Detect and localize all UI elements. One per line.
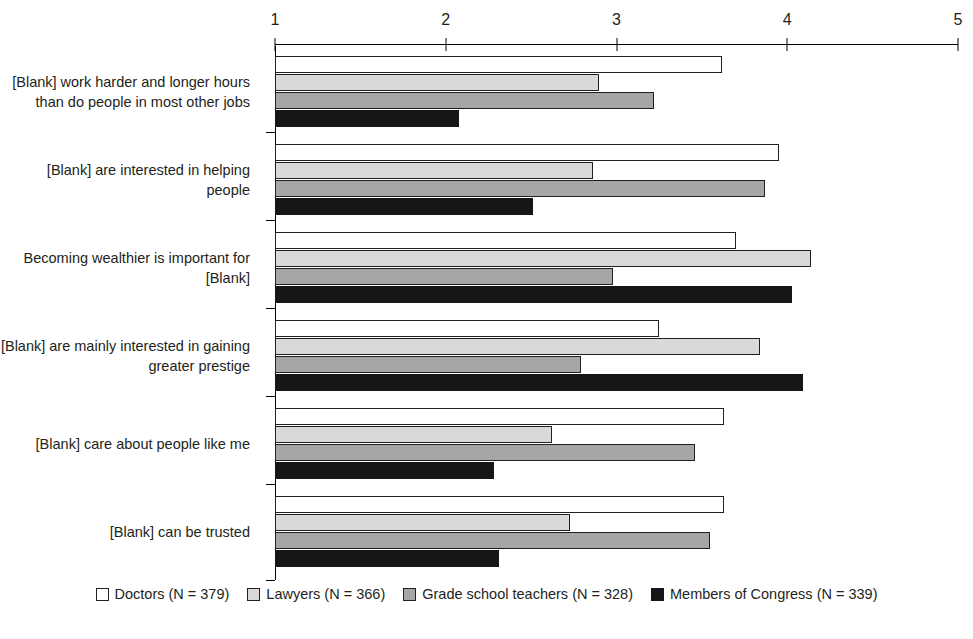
legend-swatch-icon bbox=[403, 588, 416, 601]
category-label: [Blank] are mainly interested in gaining… bbox=[0, 336, 250, 376]
legend-item[interactable]: Grade school teachers (N = 328) bbox=[403, 585, 633, 603]
bar-group bbox=[275, 496, 958, 568]
bar[interactable] bbox=[275, 514, 570, 531]
legend-label: Doctors (N = 379) bbox=[115, 585, 230, 603]
bar[interactable] bbox=[275, 374, 803, 391]
bar[interactable] bbox=[275, 232, 736, 249]
legend-label: Lawyers (N = 366) bbox=[266, 585, 385, 603]
legend-item[interactable]: Lawyers (N = 366) bbox=[247, 585, 385, 603]
category-axis-tick bbox=[266, 132, 275, 133]
bar[interactable] bbox=[275, 180, 765, 197]
x-axis: 12345 bbox=[275, 0, 958, 46]
category-axis-tick bbox=[266, 220, 275, 221]
category-label: Becoming wealthier is important for [Bla… bbox=[0, 248, 250, 288]
legend-label: Members of Congress (N = 339) bbox=[670, 585, 878, 603]
bar[interactable] bbox=[275, 162, 593, 179]
bar[interactable] bbox=[275, 56, 722, 73]
bar-group bbox=[275, 408, 958, 480]
bar[interactable] bbox=[275, 496, 724, 513]
bar[interactable] bbox=[275, 356, 581, 373]
x-axis-tick-label: 1 bbox=[271, 12, 280, 28]
bar-group bbox=[275, 144, 958, 216]
legend-swatch-icon bbox=[247, 588, 260, 601]
bar[interactable] bbox=[275, 198, 533, 215]
bar-group bbox=[275, 232, 958, 304]
category-label: [Blank] care about people like me bbox=[0, 434, 250, 454]
category-label: [Blank] work harder and longer hours tha… bbox=[0, 72, 250, 112]
bar[interactable] bbox=[275, 74, 599, 91]
bar-group bbox=[275, 320, 958, 392]
bar[interactable] bbox=[275, 532, 710, 549]
bar[interactable] bbox=[275, 92, 654, 109]
bar[interactable] bbox=[275, 250, 811, 267]
plot-area bbox=[275, 46, 958, 575]
category-label: [Blank] can be trusted bbox=[0, 522, 250, 542]
bar-group bbox=[275, 56, 958, 128]
x-axis-tick-label: 4 bbox=[783, 12, 792, 28]
bar[interactable] bbox=[275, 144, 779, 161]
bar[interactable] bbox=[275, 550, 499, 567]
bar[interactable] bbox=[275, 320, 659, 337]
x-axis-tick-label: 3 bbox=[612, 12, 621, 28]
x-axis-tick-label: 5 bbox=[954, 12, 963, 28]
bar[interactable] bbox=[275, 338, 760, 355]
bar[interactable] bbox=[275, 408, 724, 425]
legend: Doctors (N = 379)Lawyers (N = 366)Grade … bbox=[0, 585, 973, 603]
category-axis-tick bbox=[266, 580, 275, 581]
bar[interactable] bbox=[275, 444, 695, 461]
category-label: [Blank] are interested in helping people bbox=[0, 160, 250, 200]
legend-label: Grade school teachers (N = 328) bbox=[422, 585, 633, 603]
x-axis-tick-label: 2 bbox=[441, 12, 450, 28]
category-axis-tick bbox=[266, 308, 275, 309]
legend-item[interactable]: Members of Congress (N = 339) bbox=[651, 585, 878, 603]
category-axis-labels: [Blank] work harder and longer hours tha… bbox=[0, 46, 262, 575]
bar[interactable] bbox=[275, 110, 459, 127]
bar[interactable] bbox=[275, 268, 613, 285]
bar[interactable] bbox=[275, 426, 552, 443]
legend-swatch-icon bbox=[651, 588, 664, 601]
bar[interactable] bbox=[275, 462, 494, 479]
grouped-bar-chart: 12345 [Blank] work harder and longer hou… bbox=[0, 0, 973, 639]
legend-item[interactable]: Doctors (N = 379) bbox=[96, 585, 230, 603]
category-axis-tick bbox=[266, 484, 275, 485]
legend-swatch-icon bbox=[96, 588, 109, 601]
bar[interactable] bbox=[275, 286, 792, 303]
category-axis-tick bbox=[266, 396, 275, 397]
